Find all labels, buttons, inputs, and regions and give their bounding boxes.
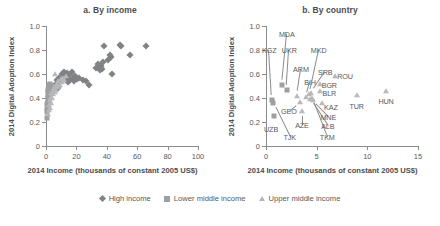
data-point-hun [383, 89, 389, 94]
legend-label: High income [109, 194, 151, 203]
country-label-ukr: UKR [282, 46, 297, 55]
data-point-ukr [284, 87, 289, 92]
panel-b-x-tick [418, 146, 419, 150]
data-point-triangle [48, 100, 54, 105]
data-point-diamond [108, 70, 115, 77]
legend-label: Upper middle income [269, 194, 341, 203]
panel-a-x-tick-label: 0 [44, 152, 48, 161]
panel-a-x-tick-label: 60 [133, 152, 141, 161]
panel-b-y-tick [262, 98, 266, 99]
country-label-mne: MNE [320, 112, 336, 121]
panel-a-y-tick-label: 0.4 [30, 94, 40, 103]
panel-b-y-tick [262, 122, 266, 123]
country-label-tjk: TJK [284, 133, 296, 142]
panel-a-y-tick-label: 0.6 [30, 70, 40, 79]
panel-a-x-axis-label: 2014 Income (thousands of constant 2005 … [20, 166, 205, 175]
data-point-diamond [86, 81, 93, 88]
data-point-tur [354, 92, 360, 97]
panel-a-title: a. By income [0, 5, 220, 15]
legend-item-upper-middle-income: Upper middle income [259, 194, 341, 203]
panel-b-y-axis-label-text: 2014 Digital Adoption Index [228, 36, 237, 135]
panel-b-x-tick-label: 15 [414, 152, 422, 161]
legend-item-lower-middle-income: Lower middle income [164, 194, 246, 203]
panel-a-x-tick [107, 146, 108, 150]
square-marker-icon [164, 196, 170, 202]
panel-a-y-tick [42, 50, 46, 51]
country-label-hun: HUN [378, 97, 393, 106]
figure-root: a. By income 2014 Digital Adoption Index… [0, 0, 440, 226]
panel-a-x-axis [46, 146, 198, 147]
data-point-triangle [52, 71, 58, 76]
chart-legend: High incomeLower middle incomeUpper midd… [0, 194, 440, 203]
panel-b-plot-area: 00.20.40.60.81.0051015KGZUZBMDAUKRTJKGEO… [266, 26, 418, 146]
data-point-geo [297, 99, 303, 104]
country-label-rou: ROU [337, 71, 353, 80]
data-point-diamond [118, 43, 125, 50]
leader-line-kgz [268, 50, 272, 95]
panel-a-y-tick [42, 122, 46, 123]
data-point-mne [310, 98, 316, 103]
panel-a-y-tick-label: 1.0 [30, 22, 40, 31]
panel-by-country: b. By country 2014 Digital Adoption Inde… [220, 0, 440, 190]
panel-b-x-tick-label: 10 [363, 152, 371, 161]
country-label-srb: SRB [318, 68, 332, 77]
country-label-kgz: KGZ [262, 46, 276, 55]
data-point-diamond [142, 43, 149, 50]
panel-b-title: b. By country [220, 5, 440, 15]
panel-b-y-tick-label: 1.0 [250, 22, 260, 31]
country-label-arm: ARM [293, 64, 309, 73]
legend-item-high-income: High income [100, 194, 151, 203]
triangle-marker-icon [259, 196, 265, 201]
data-point-diamond [126, 51, 133, 58]
country-label-mkd: MKD [311, 46, 327, 55]
panel-a-x-tick [137, 146, 138, 150]
diamond-marker-icon [99, 195, 106, 202]
panel-b-x-tick-label: 0 [264, 152, 268, 161]
panel-a-y-tick-label: 0.2 [30, 118, 40, 127]
country-label-aze: AZE [295, 121, 309, 130]
country-label-mda: MDA [279, 30, 295, 39]
data-point-aze [299, 108, 305, 113]
panel-a-y-tick-label: 0.8 [30, 46, 40, 55]
panel-b-x-tick [367, 146, 368, 150]
panel-a-x-tick-label: 100 [192, 152, 205, 161]
panel-a-x-tick-label: 20 [72, 152, 80, 161]
panel-a-x-tick [76, 146, 77, 150]
panel-a-x-tick [168, 146, 169, 150]
country-label-blr: BLR [322, 88, 336, 97]
panel-a-y-axis-label: 2014 Digital Adoption Index [6, 26, 18, 146]
panel-b-y-tick-label: 0.4 [250, 94, 260, 103]
panel-a-y-tick-label: 0 [36, 142, 40, 151]
data-point-diamond [100, 43, 107, 50]
panel-b-x-tick [317, 146, 318, 150]
country-label-uzb: UZB [264, 124, 278, 133]
panel-a-x-tick [198, 146, 199, 150]
country-label-kaz: KAZ [324, 103, 338, 112]
data-point-uzb [271, 114, 276, 119]
country-label-alb: ALB [321, 122, 334, 131]
panel-b-x-tick [266, 146, 267, 150]
country-label-geo: GEO [281, 106, 297, 115]
legend-label: Lower middle income [174, 194, 246, 203]
panel-b-y-axis-label: 2014 Digital Adoption Index [226, 26, 238, 146]
country-label-tur: TUR [349, 101, 363, 110]
panel-b-x-axis-label: 2014 Income (thousands of constant 2005 … [240, 166, 425, 175]
panel-a-y-tick [42, 26, 46, 27]
panel-a-plot-area: 00.20.40.60.81.0020406080100 [46, 26, 198, 146]
panel-a-x-tick-label: 40 [103, 152, 111, 161]
country-label-tkm: TKM [320, 133, 335, 142]
panel-b-y-tick-label: 0.2 [250, 118, 260, 127]
panel-a-x-tick-label: 80 [163, 152, 171, 161]
panel-a-x-tick [46, 146, 47, 150]
data-point-triangle [63, 74, 69, 79]
panel-a-y-tick [42, 74, 46, 75]
data-point-arm [294, 93, 300, 98]
panel-a-y-axis-label-text: 2014 Digital Adoption Index [8, 36, 17, 135]
panel-by-income: a. By income 2014 Digital Adoption Index… [0, 0, 220, 190]
panel-b-y-tick [262, 26, 266, 27]
panel-b-x-axis [266, 146, 418, 147]
panel-b-y-tick-label: 0.8 [250, 46, 260, 55]
leader-line-ukr [286, 50, 289, 85]
panel-b-y-tick-label: 0.6 [250, 70, 260, 79]
data-point-triangle [47, 105, 53, 110]
